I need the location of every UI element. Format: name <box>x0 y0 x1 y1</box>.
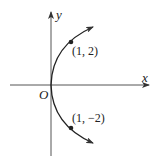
point-1-neg2 <box>69 126 74 131</box>
origin-label: O <box>39 88 48 101</box>
x-axis-label: x <box>142 71 148 84</box>
y-axis-label: y <box>56 8 62 21</box>
point-label-1-2: (1, 2) <box>72 45 98 57</box>
point-label-1-neg2: (1, −2) <box>72 112 105 124</box>
parabola-diagram <box>0 0 159 164</box>
